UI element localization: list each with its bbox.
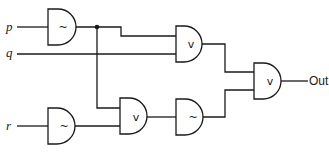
or-symbol: v (188, 38, 195, 51)
gate-or-top: v (176, 26, 202, 62)
junction-dot (95, 25, 100, 30)
or-symbol: v (267, 75, 274, 88)
not-symbol: ~ (188, 111, 197, 124)
logic-circuit-diagram: p q r ~ v ~ (0, 0, 329, 152)
gate-not-p: ~ (48, 9, 76, 45)
wire-g1-to-g4 (97, 27, 120, 108)
wire-g1-to-g2 (75, 27, 176, 36)
gate-or-final: v (254, 63, 281, 99)
output-label: Out (309, 74, 329, 88)
gate-not-bottom: ~ (176, 99, 203, 135)
gate-not-r: ~ (48, 108, 75, 144)
input-label-r: r (6, 118, 12, 133)
or-symbol: v (133, 111, 140, 124)
input-label-q: q (6, 45, 13, 60)
not-symbol: ~ (59, 120, 68, 133)
input-label-p: p (5, 19, 13, 34)
not-symbol: ~ (58, 21, 67, 34)
wire-g2-to-g6 (202, 44, 254, 72)
gate-or-bottom: v (120, 98, 147, 134)
wire-g5-to-g6 (203, 90, 254, 117)
